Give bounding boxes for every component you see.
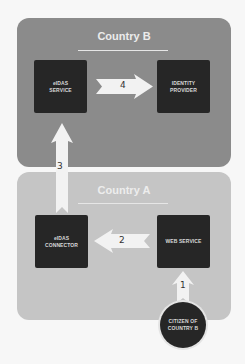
eidas-service-label: eIDAS SERVICE bbox=[49, 80, 72, 94]
arrow-step-3-label: 3 bbox=[57, 161, 63, 171]
arrow-step-2-label: 2 bbox=[119, 235, 125, 245]
citizen-label: CITIZEN OF COUNTRY B bbox=[168, 318, 198, 332]
web-service-node: WEB SERVICE bbox=[157, 215, 210, 268]
country-b-divider bbox=[78, 50, 168, 51]
country-a-title: Country A bbox=[17, 184, 231, 196]
eidas-service-node: eIDAS SERVICE bbox=[34, 60, 87, 113]
country-b-title: Country B bbox=[17, 30, 231, 42]
identity-provider-label: IDENTITY PROVIDER bbox=[170, 80, 197, 94]
country-a-divider bbox=[78, 203, 168, 204]
identity-provider-node: IDENTITY PROVIDER bbox=[157, 60, 210, 113]
citizen-node: CITIZEN OF COUNTRY B bbox=[160, 302, 206, 348]
eidas-connector-node: eIDAS CONNECTOR bbox=[35, 215, 88, 268]
web-service-label: WEB SERVICE bbox=[165, 238, 201, 245]
arrow-step-3: 3 bbox=[51, 123, 73, 213]
arrow-step-4-label: 4 bbox=[120, 80, 126, 90]
eidas-connector-label: eIDAS CONNECTOR bbox=[45, 235, 78, 249]
arrow-step-4: 4 bbox=[96, 74, 153, 99]
arrow-step-1: 1 bbox=[172, 271, 194, 303]
arrow-step-2: 2 bbox=[94, 229, 150, 253]
arrow-step-1-label: 1 bbox=[180, 280, 186, 290]
